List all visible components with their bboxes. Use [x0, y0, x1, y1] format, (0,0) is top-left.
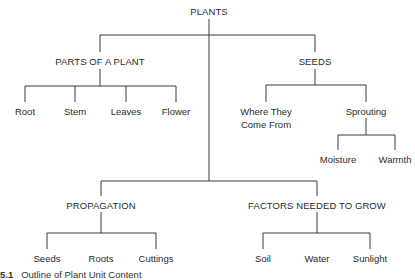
leaf-cuttings: Cuttings [139, 252, 174, 265]
leaf-root: Root [15, 105, 35, 118]
figure-caption-text: Outline of Plant Unit Content [21, 269, 141, 280]
where-they-line2: Come From [240, 118, 292, 131]
leaf-stem: Stem [64, 105, 86, 118]
node-sprouting: Sprouting [346, 105, 387, 118]
leaf-water: Water [305, 252, 330, 265]
node-propagation: PROPAGATION [66, 199, 135, 212]
leaf-soil: Soil [255, 252, 271, 265]
leaf-where-they-come-from: Where They Come From [240, 105, 292, 131]
node-factors-needed-to-grow: FACTORS NEEDED TO GROW [248, 199, 386, 212]
leaf-seeds: Seeds [34, 252, 61, 265]
figure-number: 5.1 [0, 269, 13, 280]
leaf-sunlight: Sunlight [353, 252, 387, 265]
node-seeds: SEEDS [299, 55, 332, 68]
root-node-plants: PLANTS [190, 5, 228, 18]
connector-lines [0, 0, 415, 280]
leaf-flower: Flower [162, 105, 191, 118]
leaf-warmth: Warmth [379, 153, 412, 166]
where-they-line1: Where They [240, 105, 292, 118]
node-parts-of-a-plant: PARTS OF A PLANT [55, 55, 144, 68]
leaf-roots: Roots [89, 252, 114, 265]
figure-caption: 5.1 Outline of Plant Unit Content [0, 269, 142, 280]
leaf-leaves: Leaves [111, 105, 142, 118]
leaf-moisture: Moisture [320, 153, 356, 166]
